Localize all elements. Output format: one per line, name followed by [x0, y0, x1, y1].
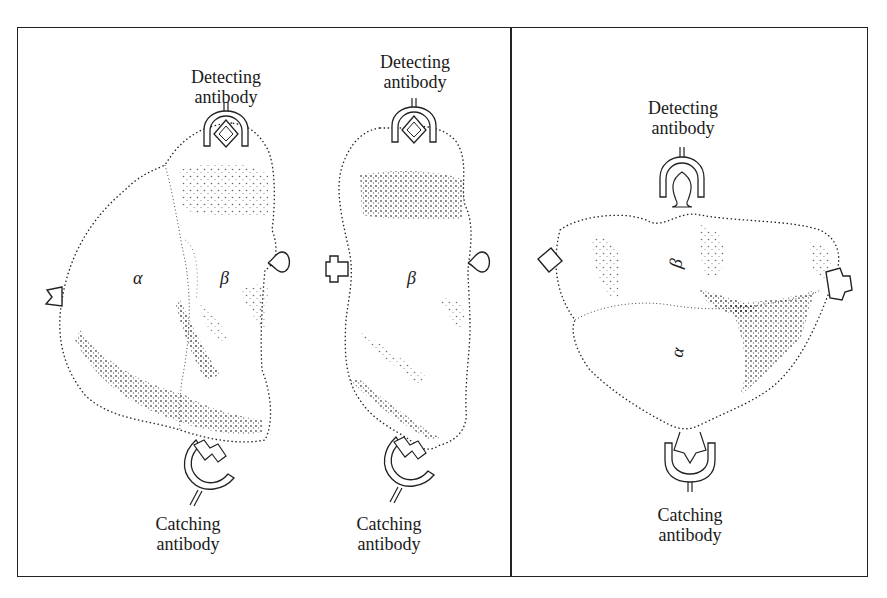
label-text: Detecting antibody: [191, 67, 261, 107]
label-text: Catching antibody: [658, 505, 723, 545]
right-molecule: [538, 214, 852, 429]
middle-catching-antibody-label: Catching antibody: [329, 514, 449, 554]
middle-detecting-antibody-label: Detecting antibody: [355, 52, 475, 92]
right-detecting-antibody-label: Detecting antibody: [623, 98, 743, 138]
label-text: Detecting antibody: [380, 52, 450, 92]
middle-detecting-antibody-icon: [392, 98, 436, 143]
left-catching-antibody-icon: [184, 440, 234, 506]
label-text: Detecting antibody: [648, 98, 718, 138]
label-text: Catching antibody: [357, 514, 422, 554]
left-catching-antibody-label: Catching antibody: [128, 514, 248, 554]
left-detecting-antibody-label: Detecting antibody: [166, 67, 286, 107]
left-detecting-antibody-icon: [204, 102, 248, 147]
right-detecting-antibody-icon: [660, 147, 704, 207]
right-catching-antibody-icon: [665, 432, 715, 492]
label-text: Catching antibody: [156, 514, 221, 554]
left-molecule: [46, 123, 290, 442]
left-alpha-subunit-label: α: [133, 268, 142, 289]
middle-beta-subunit-label: β: [407, 268, 416, 289]
right-catching-antibody-label: Catching antibody: [630, 505, 750, 545]
left-beta-subunit-label: β: [220, 268, 229, 289]
middle-catching-antibody-icon: [384, 437, 434, 503]
